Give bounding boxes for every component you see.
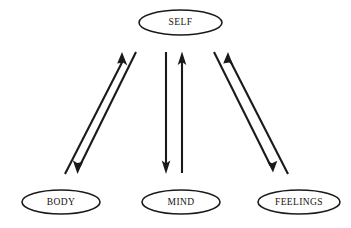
node-self[interactable]: SELF	[139, 10, 222, 35]
arrow-body-to-self	[65, 52, 127, 174]
relationship-diagram: SELF BODY MIND FEELINGS	[0, 0, 351, 228]
arrow-feelings-to-self	[223, 52, 288, 174]
arrow-shaft	[230, 60, 289, 175]
node-mind[interactable]: MIND	[142, 190, 220, 214]
node-body[interactable]: BODY	[22, 190, 100, 214]
node-feelings-label: FEELINGS	[275, 197, 323, 207]
arrow-self-to-body	[73, 52, 136, 174]
arrow-self-to-feelings	[214, 52, 277, 173]
node-body-label: BODY	[47, 197, 76, 207]
node-self-label: SELF	[169, 17, 193, 27]
node-feelings[interactable]: FEELINGS	[258, 190, 340, 214]
arrow-shaft	[214, 52, 271, 166]
arrow-mind-to-self	[178, 52, 187, 174]
arrow-self-to-mind	[162, 52, 171, 174]
arrowhead-up	[223, 52, 233, 66]
diagram-canvas: SELF BODY MIND FEELINGS	[0, 0, 351, 228]
arrow-shaft	[65, 60, 124, 175]
arrowhead-down	[267, 161, 277, 173]
node-mind-label: MIND	[168, 197, 195, 207]
arrow-shaft	[80, 52, 137, 167]
arrow-group	[65, 52, 288, 175]
